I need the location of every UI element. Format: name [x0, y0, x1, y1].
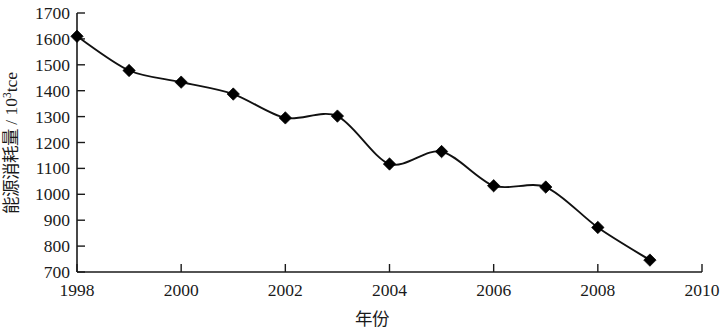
y-axis-tick-label: 1700	[35, 3, 70, 23]
y-axis-tick-label: 1200	[35, 133, 70, 153]
x-axis-tick-label: 2000	[164, 280, 199, 300]
x-axis-tick-label: 2002	[268, 280, 303, 300]
y-axis-title: 能源消耗量 / 103tce	[1, 72, 21, 215]
y-axis-tick-label: 1300	[35, 107, 70, 127]
y-axis-tick-label: 1500	[35, 55, 70, 75]
x-axis-tick-label: 2006	[476, 280, 511, 300]
energy-consumption-series-line	[77, 36, 650, 260]
y-axis-tick-label: 1000	[35, 184, 70, 204]
x-axis-tick-marks	[77, 264, 702, 272]
chart-canvas: 7008009001000110012001300140015001600170…	[0, 0, 728, 331]
x-axis-tick-label: 2010	[685, 280, 720, 300]
y-axis-tick-label: 1600	[35, 29, 70, 49]
y-axis-tick-label: 900	[44, 210, 71, 230]
x-axis-tick-label: 2008	[580, 280, 615, 300]
y-axis-tick-label: 700	[44, 262, 71, 282]
energy-consumption-data-points	[71, 30, 656, 266]
x-axis-tick-label: 1998	[60, 280, 95, 300]
data-point-marker	[383, 158, 395, 170]
y-axis-tick-label: 1400	[35, 81, 70, 101]
x-axis-title: 年份	[355, 309, 389, 329]
data-point-marker	[540, 181, 552, 193]
data-point-marker	[227, 88, 239, 100]
y-axis-tick-label: 800	[44, 236, 71, 256]
data-point-marker	[71, 30, 83, 42]
data-point-marker	[487, 180, 499, 192]
data-point-marker	[644, 254, 656, 266]
data-point-marker	[123, 64, 135, 76]
x-axis-tick-label: 2004	[372, 280, 407, 300]
data-point-marker	[279, 112, 291, 124]
data-point-marker	[435, 145, 447, 157]
y-axis-tick-label: 1100	[36, 158, 71, 178]
y-axis-title-unit: tce	[1, 72, 21, 93]
data-point-marker	[331, 110, 343, 122]
svg-text:能源消耗量 / 103tce: 能源消耗量 / 103tce	[1, 72, 21, 215]
energy-consumption-line-chart: 7008009001000110012001300140015001600170…	[0, 0, 728, 331]
y-axis-tick-label-group: 7008009001000110012001300140015001600170…	[35, 3, 70, 282]
x-axis-tick-label-group: 1998200020022004200620082010	[60, 280, 720, 300]
y-axis-tick-marks	[77, 13, 85, 272]
data-point-marker	[175, 76, 187, 88]
y-axis-title-main: 能源消耗量 / 10	[1, 98, 21, 214]
